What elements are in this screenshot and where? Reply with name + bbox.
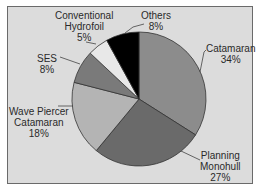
label-name: SES <box>37 53 57 64</box>
label-ses: SES 8% <box>37 53 57 75</box>
label-name-line1: Wave Piercer <box>9 106 69 117</box>
leader-line <box>181 151 200 160</box>
label-catamaran: Catamaran 34% <box>206 43 255 65</box>
label-pct: 27% <box>200 172 241 183</box>
label-conventional-hydrofoil: Conventional Hydrofoil 5% <box>55 10 113 43</box>
label-pct: 8% <box>37 64 57 75</box>
label-pct: 5% <box>55 32 113 43</box>
label-wave-piercer-catamaran: Wave Piercer Catamaran 18% <box>9 106 69 139</box>
label-name-line1: Conventional <box>55 10 113 21</box>
label-name-line1: Planning <box>200 150 241 161</box>
label-name: Others <box>141 10 171 21</box>
label-planning-monohull: Planning Monohull 27% <box>200 150 241 183</box>
label-pct: 18% <box>9 128 69 139</box>
label-pct: 8% <box>141 21 171 32</box>
label-name-line2: Monohull <box>200 161 241 172</box>
label-pct: 34% <box>206 54 255 65</box>
label-name: Catamaran <box>206 43 255 54</box>
label-name-line2: Hydrofoil <box>55 21 113 32</box>
leader-line <box>60 57 80 64</box>
label-others: Others 8% <box>141 10 171 32</box>
label-name-line2: Catamaran <box>9 117 69 128</box>
